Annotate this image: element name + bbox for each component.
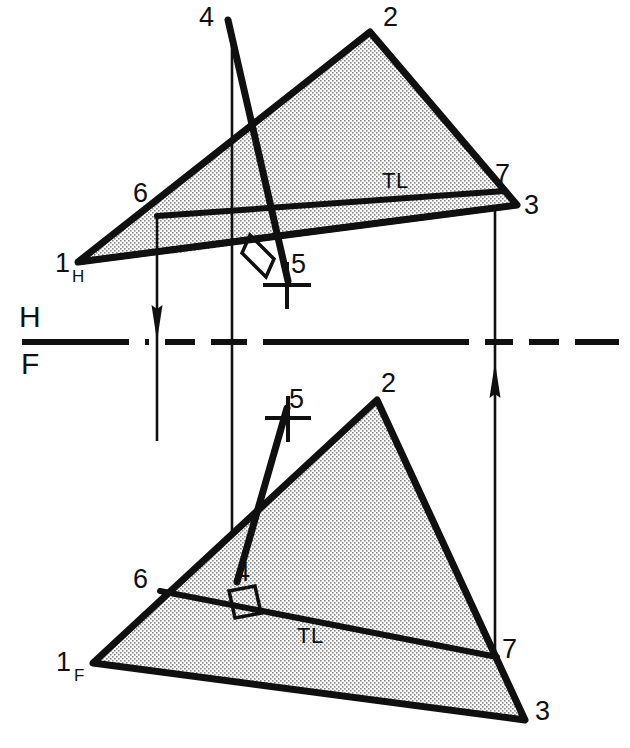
- top-view-label-1-subscript-h: H: [72, 268, 84, 285]
- drawing-canvas: 4 2 7 3 TL 6 1 H 5 H F 5 2 6 4 TL 7 1 F …: [0, 0, 630, 748]
- front-view-label-1: 1: [56, 649, 71, 676]
- top-view-label-1: 1: [55, 250, 70, 277]
- front-view-label-2: 2: [381, 370, 396, 397]
- front-view-label-3: 3: [535, 698, 550, 725]
- front-view-label-5: 5: [289, 386, 304, 413]
- top-view-right-angle-symbol: [242, 235, 274, 277]
- top-view-label-3: 3: [524, 192, 539, 219]
- front-view-label-4: 4: [235, 559, 250, 586]
- front-view-label-7: 7: [502, 636, 517, 663]
- front-view-group: [93, 396, 525, 720]
- projection-arrow-up-3: [490, 362, 501, 398]
- projection-arrow-down-6: [152, 305, 163, 341]
- top-view-label-4: 4: [199, 4, 214, 31]
- top-view-label-tl: TL: [382, 170, 409, 192]
- top-view-label-6: 6: [133, 180, 148, 207]
- top-view-label-5: 5: [291, 251, 306, 278]
- front-view-label-6: 6: [133, 566, 148, 593]
- fold-line-label-f: F: [21, 349, 39, 379]
- fold-line-label-h: H: [19, 302, 41, 332]
- front-view-point-5-cross: [265, 396, 311, 442]
- front-view-label-tl: TL: [297, 625, 324, 647]
- top-view-label-2: 2: [383, 4, 398, 31]
- top-view-label-7: 7: [495, 161, 510, 188]
- front-view-label-1-subscript-f: F: [74, 667, 84, 684]
